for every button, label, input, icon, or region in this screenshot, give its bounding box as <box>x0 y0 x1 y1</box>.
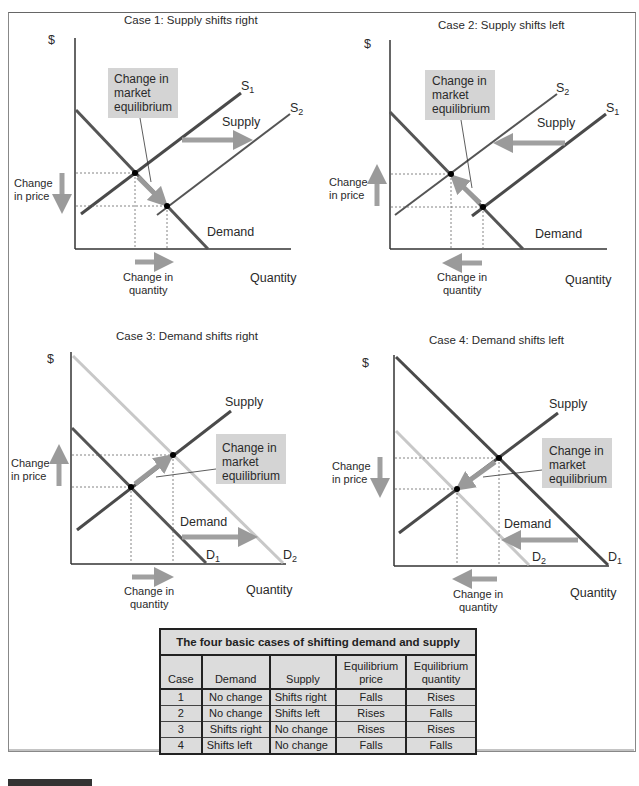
quantity-change-label-2: quantity <box>130 598 169 610</box>
footer-bar <box>8 779 92 786</box>
table-caption: The four basic cases of shifting demand … <box>160 629 476 655</box>
price-change-label-2: in price <box>332 473 367 485</box>
price-change-label-2: in price <box>14 190 49 202</box>
d2-label: D2 <box>283 548 297 564</box>
cell-supply: Shifts left <box>270 706 336 722</box>
callout-line-2: market <box>549 458 586 472</box>
y-axis-label: $ <box>364 37 371 51</box>
col-header-demand: Demand <box>202 655 270 689</box>
cell-eq-quantity: Falls <box>406 738 476 755</box>
callout-pointer <box>156 469 216 477</box>
col-header-eq-price: Equilibriumprice <box>336 655 406 689</box>
price-change-label-1: Change <box>329 176 368 188</box>
equilibrium-point-new <box>454 486 460 492</box>
price-change-label-2: in price <box>329 189 364 201</box>
x-axis-label: Quantity <box>570 586 617 600</box>
callout-line-2: market <box>432 88 469 102</box>
quantity-change-label-2: quantity <box>129 284 168 296</box>
table-row: 4 Shifts left No change Falls Falls <box>160 738 476 755</box>
price-change-label-1: Change <box>11 457 50 469</box>
table-row: 2 No change Shifts left Rises Falls <box>160 706 476 722</box>
cell-eq-price: Falls <box>336 738 406 755</box>
cell-supply: No change <box>270 738 336 755</box>
supply-label: Supply <box>222 115 261 129</box>
callout-line-3: equilibrium <box>432 102 490 116</box>
cell-case: 2 <box>160 706 202 722</box>
callout-line-3: equilibrium <box>549 472 607 486</box>
equilibrium-point-new <box>164 203 170 209</box>
x-axis-label: Quantity <box>246 583 293 597</box>
cell-case: 3 <box>160 722 202 738</box>
col-header-eq-quantity: Equilibriumquantity <box>406 655 476 689</box>
demand-label: Demand <box>207 225 254 239</box>
d2-label: D2 <box>532 550 546 566</box>
cell-case: 1 <box>160 689 202 706</box>
demand-curve <box>390 112 523 249</box>
supply-label: Supply <box>549 397 588 411</box>
equilibrium-shift-arrow <box>135 460 166 484</box>
callout-line-3: equilibrium <box>222 469 280 483</box>
demand-label: Demand <box>535 227 582 241</box>
panel-title: Case 4: Demand shifts left <box>429 334 565 346</box>
x-axis-label: Quantity <box>250 271 297 285</box>
cell-eq-quantity: Falls <box>406 706 476 722</box>
table-row: 1 No change Shifts right Falls Rises <box>160 689 476 706</box>
quantity-change-label-1: Change in <box>123 271 173 283</box>
callout-line-1: Change in <box>222 441 277 455</box>
quantity-change-label-1: Change in <box>437 271 487 283</box>
callout-line-2: market <box>222 455 259 469</box>
s2-label: S2 <box>556 81 569 97</box>
demand-curve-d1 <box>72 428 206 563</box>
callout-line-1: Change in <box>432 74 487 88</box>
equilibrium-point-old <box>496 455 502 461</box>
panel-case-1: Case 1: Supply shifts right $ S1 S2 Supp… <box>14 14 303 296</box>
panel-case-2: Case 2: Supply shifts left $ S2 S1 Suppl… <box>329 19 619 296</box>
equilibrium-point-new <box>170 452 176 458</box>
s1-label: S1 <box>241 79 254 95</box>
cell-supply: No change <box>270 722 336 738</box>
equilibrium-point-old <box>480 204 486 210</box>
price-change-label-1: Change <box>14 177 53 189</box>
callout-pointer <box>140 118 151 182</box>
panel-case-3: Case 3: Demand shifts right $ Supply Dem… <box>11 330 297 610</box>
callout-line-3: equilibrium <box>114 100 172 114</box>
demand-label: Demand <box>504 517 551 531</box>
equilibrium-guides <box>395 458 499 566</box>
x-axis-label: Quantity <box>565 273 612 287</box>
callout-pointer <box>461 120 472 188</box>
cell-eq-price: Rises <box>336 706 406 722</box>
price-change-label-2: in price <box>11 470 46 482</box>
supply-label: Supply <box>537 116 576 130</box>
cell-demand: No change <box>202 706 270 722</box>
callout-line-1: Change in <box>114 72 169 86</box>
d1-label: D1 <box>608 550 622 566</box>
quantity-change-label-1: Change in <box>453 588 503 600</box>
cell-demand: Shifts right <box>202 722 270 738</box>
summary-table: The four basic cases of shifting demand … <box>159 628 477 755</box>
col-header-case: Case <box>160 655 202 689</box>
equilibrium-point-new <box>448 171 454 177</box>
price-change-label-1: Change <box>332 460 371 472</box>
cell-eq-price: Falls <box>336 689 406 706</box>
callout-line-1: Change in <box>549 444 604 458</box>
cell-eq-quantity: Rises <box>406 722 476 738</box>
cell-supply: Shifts right <box>270 689 336 706</box>
panel-case-4: Case 4: Demand shifts left $ Supply Dema… <box>332 334 622 613</box>
quantity-change-label-1: Change in <box>124 585 174 597</box>
quantity-change-label-2: quantity <box>443 284 482 296</box>
s1-label: S1 <box>606 101 619 117</box>
equilibrium-point-old <box>128 484 134 490</box>
quantity-change-label-2: quantity <box>459 601 498 613</box>
cell-case: 4 <box>160 738 202 755</box>
equilibrium-point-old <box>132 170 138 176</box>
d1-label: D1 <box>206 548 220 564</box>
cell-eq-quantity: Rises <box>406 689 476 706</box>
y-axis-label: $ <box>48 33 55 47</box>
cell-eq-price: Rises <box>336 722 406 738</box>
col-header-supply: Supply <box>270 655 336 689</box>
panel-title: Case 3: Demand shifts right <box>116 330 259 342</box>
demand-label: Demand <box>180 515 227 529</box>
supply-curve-s2 <box>157 114 290 215</box>
cell-demand: No change <box>202 689 270 706</box>
equilibrium-shift-arrow <box>138 177 161 200</box>
